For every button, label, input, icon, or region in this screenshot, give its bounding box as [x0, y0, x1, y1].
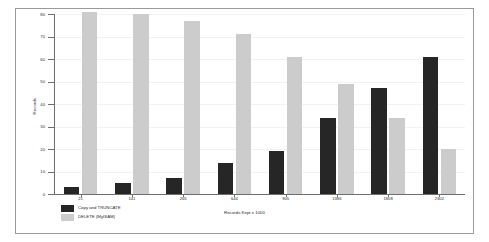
y-axis-tick: 80 — [48, 14, 55, 15]
bar — [82, 12, 97, 194]
x-axis-tick-label: 1808 — [383, 197, 392, 201]
bar — [184, 21, 199, 194]
plot-area — [55, 14, 465, 194]
bar — [218, 163, 233, 195]
x-axis-tick-label: 1386 — [332, 197, 341, 201]
y-axis-tick: 60 — [48, 59, 55, 60]
bar — [166, 178, 181, 194]
x-axis-tick-label: 141 — [128, 197, 135, 201]
bar — [389, 118, 404, 195]
y-axis-tick-label: 30 — [40, 125, 45, 129]
y-axis-tick: 40 — [48, 104, 55, 105]
chart-figure: Records Records Kept x 1000 Copy and TRU… — [0, 0, 489, 242]
x-axis-tick-label: 2302 — [435, 197, 444, 201]
bar — [371, 88, 386, 194]
x-axis-line — [55, 194, 465, 195]
bar — [320, 118, 335, 195]
legend-label: Copy and TRUNCATE — [78, 206, 121, 210]
gridline — [55, 37, 465, 38]
bar — [338, 84, 353, 194]
y-axis-tick: 20 — [48, 149, 55, 150]
legend-swatch-icon — [61, 205, 74, 212]
x-axis-tick-label: 21 — [78, 197, 83, 201]
y-axis-tick-label: 20 — [40, 147, 45, 151]
bar — [269, 151, 284, 194]
chart-legend: Copy and TRUNCATE DELETE (MyISAM) — [61, 204, 121, 222]
gridline — [55, 82, 465, 83]
gridline — [55, 14, 465, 15]
legend-item-delete-myisam: DELETE (MyISAM) — [61, 213, 121, 222]
bar — [133, 14, 148, 194]
bar — [64, 187, 79, 194]
bar — [441, 149, 456, 194]
bar — [236, 34, 251, 194]
y-axis-tick: 30 — [48, 127, 55, 128]
y-axis-tick: 10 — [48, 172, 55, 173]
y-axis-title: Records — [33, 98, 37, 114]
bars-container — [55, 14, 465, 194]
y-axis-tick-label: 10 — [40, 170, 45, 174]
y-axis-tick-label: 70 — [40, 35, 45, 39]
y-axis-tick-label: 50 — [40, 80, 45, 84]
bar — [423, 57, 438, 194]
y-axis-tick-label: 40 — [40, 102, 45, 106]
y-axis-tick-label: 60 — [40, 57, 45, 61]
y-axis-tick: 70 — [48, 37, 55, 38]
y-axis-tick: 0 — [48, 194, 55, 195]
gridline — [55, 104, 465, 105]
x-axis-tick-label: 905 — [282, 197, 289, 201]
legend-label: DELETE (MyISAM) — [78, 215, 115, 219]
gridline — [55, 59, 465, 60]
y-axis-tick-label: 0 — [43, 192, 45, 196]
y-axis-tick: 50 — [48, 82, 55, 83]
bar — [115, 183, 130, 194]
y-axis-tick-label: 80 — [40, 12, 45, 16]
legend-item-copy-truncate: Copy and TRUNCATE — [61, 204, 121, 213]
x-axis-tick-label: 265 — [180, 197, 187, 201]
bar — [287, 57, 302, 194]
x-axis-tick-label: 644 — [231, 197, 238, 201]
legend-swatch-icon — [61, 214, 74, 221]
